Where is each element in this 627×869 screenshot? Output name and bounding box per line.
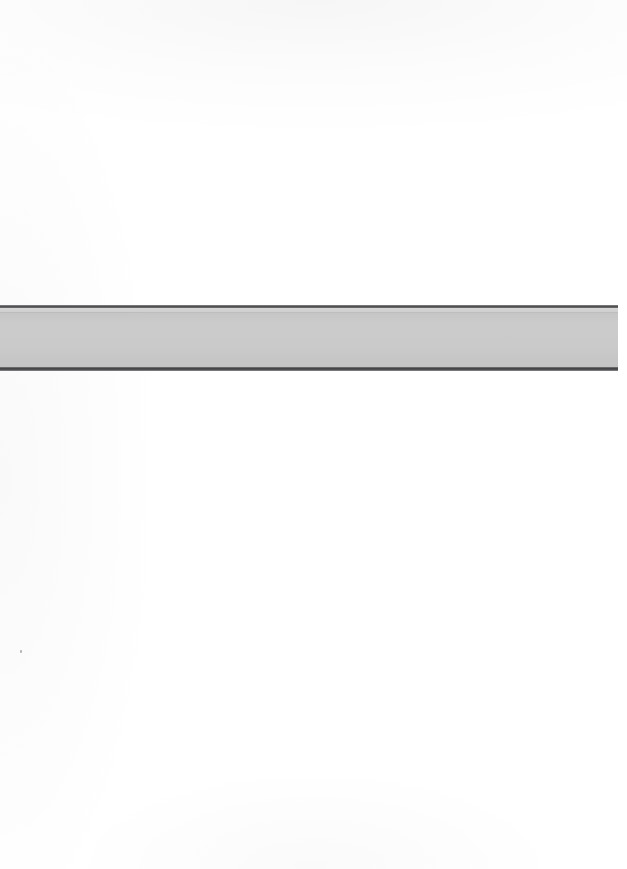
horizontal-gray-band [0,305,618,371]
band-bottom-rule [0,367,618,371]
band-right-margin-gap [618,300,627,378]
scanned-page [0,0,627,869]
band-body [0,313,618,367]
scan-dust-speck [20,650,22,653]
scan-noise-overlay [0,0,627,869]
